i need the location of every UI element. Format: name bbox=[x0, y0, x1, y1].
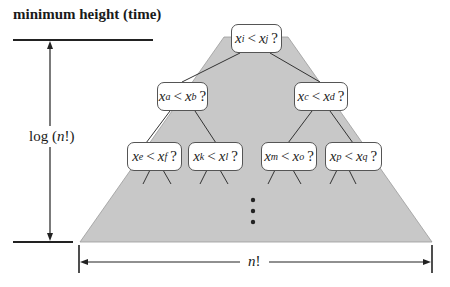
node-var: x bbox=[264, 148, 271, 165]
comparison-node-l2-right: xc<xd? bbox=[294, 82, 348, 111]
node-q: ? bbox=[200, 88, 207, 105]
node-var: x bbox=[293, 148, 300, 165]
height-label-suffix: !) bbox=[64, 128, 74, 144]
node-sub: p bbox=[336, 151, 341, 162]
node-sub: c bbox=[304, 91, 308, 102]
diagram-title: minimum height (time) bbox=[13, 6, 161, 23]
node-sub: m bbox=[271, 151, 278, 162]
node-sub: f bbox=[164, 151, 167, 162]
node-op: < bbox=[247, 30, 255, 47]
comparison-node-l2-left: xa<xb? bbox=[157, 82, 208, 111]
height-label: log (n!) bbox=[29, 126, 74, 147]
node-op: < bbox=[173, 88, 181, 105]
node-sub: d bbox=[330, 91, 335, 102]
node-var: x bbox=[185, 88, 192, 105]
node-var: x bbox=[259, 30, 266, 47]
comparison-node-l3-2: xk<xl? bbox=[188, 142, 243, 171]
node-op: < bbox=[207, 148, 215, 165]
node-var: x bbox=[235, 30, 242, 47]
comparison-node-l3-1: xe<xf? bbox=[127, 142, 182, 171]
node-op: < bbox=[344, 148, 352, 165]
node-q: ? bbox=[170, 148, 177, 165]
node-var: x bbox=[298, 88, 305, 105]
node-sub: e bbox=[139, 151, 143, 162]
node-sub: l bbox=[225, 151, 228, 162]
node-q: ? bbox=[371, 148, 378, 165]
node-sub: o bbox=[299, 151, 304, 162]
node-op: < bbox=[312, 88, 320, 105]
node-q: ? bbox=[338, 88, 345, 105]
arrow-down-icon bbox=[47, 233, 53, 241]
node-sub: j bbox=[266, 33, 269, 44]
decision-tree-diagram: minimum height (time) log (n!) n! xi<xj?… bbox=[0, 0, 450, 287]
node-sub: q bbox=[363, 151, 368, 162]
arrow-right-icon bbox=[423, 259, 431, 265]
node-sub: k bbox=[200, 151, 204, 162]
node-sub: a bbox=[165, 91, 170, 102]
node-q: ? bbox=[307, 148, 314, 165]
node-op: < bbox=[146, 148, 154, 165]
node-var: x bbox=[158, 148, 165, 165]
arrow-left-icon bbox=[80, 259, 88, 265]
comparison-node-l3-4: xp<xq? bbox=[325, 142, 382, 171]
tree-region bbox=[80, 37, 432, 242]
width-label: n! bbox=[240, 253, 269, 270]
arrow-up-icon bbox=[47, 41, 53, 49]
node-var: x bbox=[356, 148, 363, 165]
width-label-var: n bbox=[248, 253, 256, 269]
comparison-node-root: xi<xj? bbox=[231, 24, 282, 53]
width-label-suffix: ! bbox=[256, 253, 261, 269]
node-var: x bbox=[323, 88, 330, 105]
node-var: x bbox=[132, 148, 139, 165]
node-var: x bbox=[159, 88, 166, 105]
node-q: ? bbox=[271, 30, 278, 47]
node-var: x bbox=[193, 148, 200, 165]
node-op: < bbox=[281, 148, 289, 165]
comparison-node-l3-3: xm<xo? bbox=[261, 142, 317, 171]
node-var: x bbox=[219, 148, 226, 165]
node-sub: b bbox=[192, 91, 197, 102]
node-sub: i bbox=[242, 33, 245, 44]
height-label-prefix: log ( bbox=[29, 128, 57, 144]
node-q: ? bbox=[231, 148, 238, 165]
